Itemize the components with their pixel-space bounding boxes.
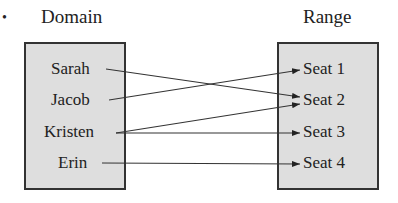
arrow-jacob-seat1	[109, 70, 300, 100]
arrow-erin-seat4	[102, 163, 300, 164]
mapping-arrows	[0, 0, 398, 203]
arrow-sarah-seat2	[106, 69, 300, 97]
arrow-kristen-seat2	[116, 104, 300, 133]
